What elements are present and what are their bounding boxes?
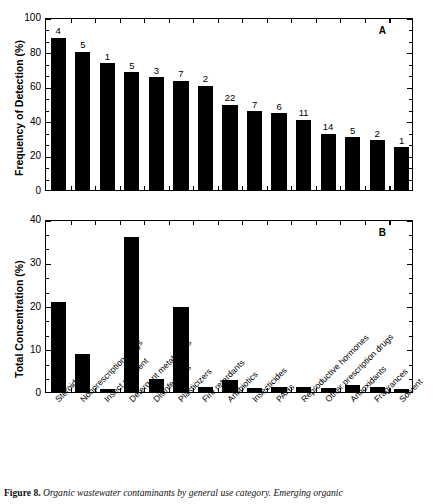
y-major-tick-right [407, 19, 412, 20]
x-tick-bottom [340, 186, 341, 190]
bar-a-14 [394, 147, 409, 190]
bar-count-label-6: 2 [193, 74, 218, 84]
y-minor-tick [46, 99, 49, 100]
bar-a-9 [271, 113, 286, 190]
figure-number: Figure 8. [4, 487, 41, 498]
x-tick-top [144, 221, 145, 225]
figure-caption-text: Organic wastewater contaminants by gener… [43, 487, 343, 498]
bar-count-label-1: 5 [71, 40, 96, 50]
x-tick-top [71, 19, 72, 23]
x-tick-top [120, 19, 121, 23]
y-minor-tick [46, 111, 49, 112]
bar-a-5 [173, 81, 188, 190]
x-tick-top [340, 19, 341, 23]
y-minor-tick-right [409, 145, 412, 146]
bar-a-13 [370, 140, 385, 190]
y-major-tick-right [407, 88, 412, 89]
y-minor-tick [46, 321, 49, 322]
bar-a-11 [321, 134, 336, 190]
x-tick-top [365, 221, 366, 225]
figure-organic-wastewater-contaminants: Frequency of Detection (%) 020406080100 … [0, 0, 442, 504]
x-tick-bottom [389, 186, 390, 190]
y-minor-tick [46, 134, 49, 135]
x-tick-bottom [365, 186, 366, 190]
x-tick-top [218, 221, 219, 225]
y-minor-tick [46, 168, 49, 169]
y-minor-tick [46, 235, 49, 236]
x-tick-top [267, 19, 268, 23]
x-tick-bottom [120, 186, 121, 190]
panel-a-plot-area: A 451537222761114521 [45, 18, 413, 191]
y-minor-tick [46, 336, 49, 337]
y-minor-tick-right [409, 321, 412, 322]
bar-count-label-2: 1 [95, 52, 120, 62]
bar-count-label-4: 3 [144, 66, 169, 76]
bar-count-label-8: 7 [242, 100, 267, 110]
y-minor-tick-right [409, 134, 412, 135]
y-minor-tick-right [409, 379, 412, 380]
y-minor-tick-right [409, 365, 412, 366]
y-major-tick [46, 19, 51, 20]
x-tick-top [291, 221, 292, 225]
bar-a-3 [124, 72, 139, 190]
bar-a-0 [51, 38, 66, 190]
y-major-tick-right [407, 157, 412, 158]
x-tick-top [120, 221, 121, 225]
x-tick-top [316, 221, 317, 225]
y-minor-tick [46, 278, 49, 279]
x-tick-top [267, 221, 268, 225]
x-tick-top [316, 19, 317, 23]
x-tick-bottom [291, 186, 292, 190]
y-minor-tick-right [409, 30, 412, 31]
y-minor-tick-right [409, 76, 412, 77]
y-minor-tick [46, 65, 49, 66]
x-tick-top [169, 221, 170, 225]
y-minor-tick [46, 42, 49, 43]
bar-a-4 [149, 77, 164, 190]
y-tick-b-10: 10 [30, 345, 41, 355]
y-major-tick [46, 157, 51, 158]
y-minor-tick-right [409, 168, 412, 169]
panel-a-bars: 451537222761114521 [46, 19, 412, 190]
y-minor-tick [46, 293, 49, 294]
y-major-tick [46, 307, 51, 308]
y-tick-b-40: 40 [30, 215, 41, 225]
y-tick-b-20: 20 [30, 302, 41, 312]
x-tick-top [71, 221, 72, 225]
bar-count-label-5: 7 [169, 69, 194, 79]
y-tick-b-30: 30 [30, 258, 41, 268]
y-major-tick-right [407, 190, 412, 191]
x-tick-bottom [71, 186, 72, 190]
y-minor-tick [46, 249, 49, 250]
x-tick-top [218, 19, 219, 23]
figure-caption: Figure 8. Organic wastewater contaminant… [4, 487, 440, 502]
bar-count-label-0: 4 [46, 26, 71, 36]
bar-count-label-12: 5 [340, 126, 365, 136]
bar-count-label-9: 6 [267, 102, 292, 112]
x-tick-top [193, 221, 194, 225]
y-minor-tick-right [409, 42, 412, 43]
y-minor-tick-right [409, 293, 412, 294]
bar-count-label-7: 22 [218, 93, 243, 103]
x-tick-top [389, 19, 390, 23]
x-axis-category-labels: SteroidsNonprescription drugsInsect repe… [0, 393, 442, 488]
bar-count-label-11: 14 [316, 122, 341, 132]
y-major-tick [46, 122, 51, 123]
y-major-tick [46, 221, 51, 222]
x-tick-top [144, 19, 145, 23]
x-tick-top [340, 221, 341, 225]
bar-a-10 [296, 120, 311, 190]
x-tick-top [193, 19, 194, 23]
y-major-tick-right [407, 264, 412, 265]
x-tick-bottom [169, 186, 170, 190]
bar-a-1 [75, 52, 90, 191]
y-minor-tick-right [409, 111, 412, 112]
x-tick-top [389, 221, 390, 225]
x-tick-top [242, 221, 243, 225]
y-major-tick [46, 350, 51, 351]
y-minor-tick-right [409, 249, 412, 250]
bar-a-6 [198, 86, 213, 190]
y-major-tick [46, 53, 51, 54]
y-minor-tick-right [409, 65, 412, 66]
x-tick-bottom [218, 186, 219, 190]
